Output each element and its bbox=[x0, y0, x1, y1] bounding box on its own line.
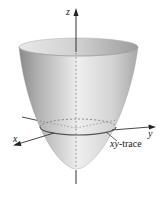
y-axis bbox=[112, 127, 150, 130]
xy-trace-label-italic: xy bbox=[110, 138, 119, 149]
x-axis-label: x bbox=[13, 134, 17, 144]
y-axis-label: y bbox=[148, 129, 152, 139]
z-axis-arrowhead bbox=[74, 8, 79, 16]
paraboloid-figure: z x y xy-trace bbox=[0, 0, 167, 204]
z-axis-label: z bbox=[66, 7, 70, 17]
paraboloid-surface bbox=[19, 47, 138, 169]
paraboloid-diagram bbox=[0, 0, 167, 204]
xy-trace-label-rest: -trace bbox=[119, 138, 142, 149]
xy-trace-label: xy-trace bbox=[110, 139, 142, 149]
